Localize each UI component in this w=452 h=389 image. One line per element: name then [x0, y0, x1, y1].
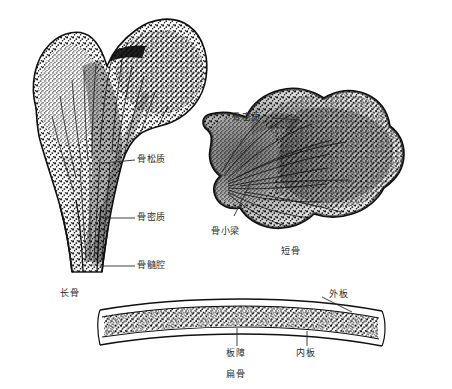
- label-medullary-cavity: 骨髓腔: [137, 260, 166, 271]
- caption-short-bone: 短骨: [281, 246, 300, 257]
- flat-bone-illustration: [95, 299, 390, 346]
- inner-plate-line: [100, 334, 382, 346]
- label-compact-bone-right: 骨密质: [232, 112, 261, 123]
- long-bone-illustration: [20, 10, 220, 285]
- figure-canvas: [0, 0, 452, 389]
- caption-flat-bone: 扁骨: [226, 369, 245, 380]
- bone-structure-figure: 骨松质 骨密质 骨髓腔 长骨 骨密质 骨小梁 短骨 外板 板障 内板 扁骨: [0, 0, 452, 389]
- label-compact-bone-left: 骨密质: [137, 212, 166, 223]
- label-outer-plate: 外板: [329, 289, 348, 300]
- short-bone-illustration: [195, 80, 415, 240]
- label-spongy-bone: 骨松质: [137, 154, 166, 165]
- label-diploe: 板障: [226, 348, 245, 359]
- caption-long-bone: 长骨: [60, 288, 79, 299]
- label-trabeculae: 骨小梁: [211, 226, 240, 237]
- label-inner-plate: 内板: [296, 348, 315, 359]
